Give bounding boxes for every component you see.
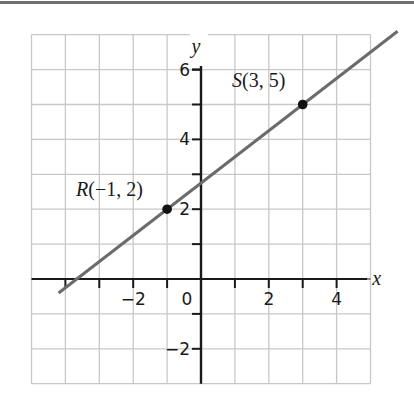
line-rs xyxy=(59,31,398,293)
y-tick-label: 4 xyxy=(179,129,190,149)
coordinate-plane: −2024642−2xyR(−1, 2)S(3, 5) xyxy=(0,0,414,400)
point-r xyxy=(162,204,172,214)
y-axis-label: y xyxy=(190,35,201,58)
point-label-s: S(3, 5) xyxy=(232,69,285,92)
line-through-r-and-s xyxy=(59,31,398,293)
x-tick-label: 0 xyxy=(182,289,193,309)
labels: −2024642−2xyR(−1, 2)S(3, 5) xyxy=(75,35,381,359)
x-axis-label: x xyxy=(371,267,381,289)
y-tick-label: 2 xyxy=(179,199,190,219)
x-tick-label: 4 xyxy=(331,289,342,309)
point-label-r: R(−1, 2) xyxy=(75,178,143,201)
axes xyxy=(32,66,371,384)
x-tick-label: −2 xyxy=(121,289,146,309)
y-tick-label: −2 xyxy=(165,339,190,359)
point-s xyxy=(298,100,308,110)
y-tick-label: 6 xyxy=(179,60,190,80)
x-tick-label: 2 xyxy=(263,289,274,309)
